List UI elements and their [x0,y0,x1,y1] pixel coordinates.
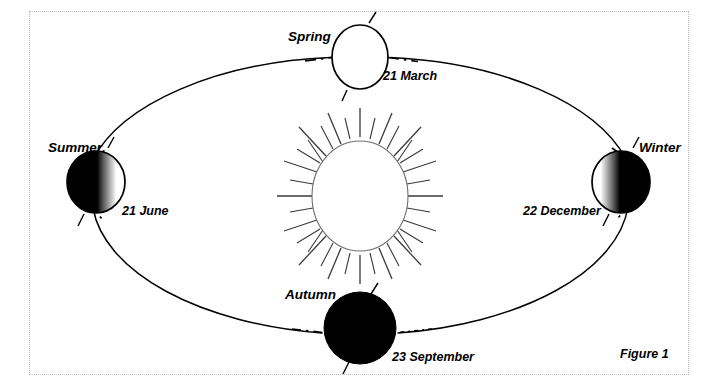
axis-tick-summer-bottom [78,214,84,226]
axis-tick-spring-top [369,12,376,23]
label-date-spring: 21 March [383,70,437,83]
sun [277,108,443,284]
earth-disc-autumn [324,292,396,364]
label-season-summer: Summer [48,141,102,155]
label-season-winter: Winter [639,141,681,155]
seasons-diagram-canvas [0,0,722,392]
earth-spring [332,12,388,101]
label-season-spring: Spring [288,30,331,44]
label-date-winter: 22 December [523,205,601,218]
seasons-figure: Spring 21 March Summer 21 June Autumn 23… [0,0,722,392]
label-season-autumn: Autumn [285,288,336,302]
axis-tick-winter-bottom [603,214,609,226]
axis-tick-summer-top [108,137,114,148]
sun-disc [312,141,408,251]
figure-caption: Figure 1 [620,348,669,361]
label-date-autumn: 23 September [392,351,474,364]
axis-tick-spring-bottom [342,90,347,101]
label-date-summer: 21 June [122,205,169,218]
axis-tick-autumn-bottom [343,362,349,374]
axis-tick-autumn-top [371,283,378,294]
earth-disc-spring [332,25,388,89]
